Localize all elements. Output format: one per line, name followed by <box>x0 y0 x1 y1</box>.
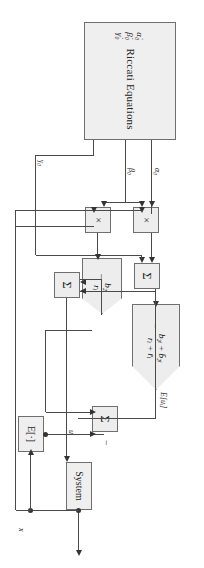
gain-small-numerator: b₂ᵢ <box>102 281 112 294</box>
label-minus-sign: − <box>101 440 112 446</box>
multiplier-symbol-2: × <box>92 217 104 223</box>
wire-sum2-in-a-h <box>101 279 102 315</box>
wire-sum3-src <box>46 330 92 331</box>
riccati-state-alpha: α̇₀ <box>135 32 145 40</box>
arrow-mult2-to-gain-small <box>96 254 102 260</box>
arrow-sum3-in-left <box>90 409 96 415</box>
junction-exp <box>43 432 48 437</box>
wire-x-fb-up-3 <box>16 226 94 227</box>
wire-x-fb-up-1 <box>16 510 31 511</box>
arrow-sum2-to-system <box>65 456 71 462</box>
arrow-x-fb-into-mult1 <box>140 207 146 213</box>
arrow-beta0-into-mult2 <box>102 201 108 207</box>
summation-block-2: Σ <box>54 272 80 298</box>
wire-x-feedback-h <box>15 210 16 510</box>
riccati-state-beta: β̇₀ <box>125 32 135 40</box>
label-gamma0: γ₀ <box>37 160 46 166</box>
arrow-exp-to-sum3 <box>90 431 96 437</box>
arrow-alpha0-into-mult1 <box>150 201 156 207</box>
summation-symbol-1: Σ <box>141 273 154 280</box>
wire-beta0-h <box>125 140 126 202</box>
arrow-x-into-exp <box>29 449 35 455</box>
wire-gamma0-h3 <box>141 255 142 259</box>
wire-sum2-in-a <box>80 279 102 280</box>
gain-block-small: − b₂ᵢ rᵢ <box>82 258 122 314</box>
gain-large-numerator: b₂ᵢ + b̄₂ᵢ <box>156 332 166 365</box>
multiplier-symbol-1: × <box>140 217 152 223</box>
expectation-block: E[·] <box>18 416 44 452</box>
block-diagram: α̇₀ β̇₀ γ̇₀ Riccati Equations × × Σ Σ Σ … <box>0 0 204 568</box>
wire-sum2-in-b-h <box>155 291 156 389</box>
wire-gamma0-v1 <box>36 155 94 156</box>
wire-x-branch-v <box>31 510 79 511</box>
wire-gamma0-h2 <box>35 155 36 255</box>
wire-Eui-h <box>155 388 156 418</box>
riccati-state-list: α̇₀ β̇₀ γ̇₀ <box>115 32 145 40</box>
gain-small-fraction: b₂ᵢ rᵢ <box>92 281 111 294</box>
system-block: System <box>66 462 92 510</box>
riccati-title: Riccati Equations <box>124 48 136 129</box>
summation-symbol-2: Σ <box>61 282 74 289</box>
wire-sum2-in-b <box>80 291 156 292</box>
riccati-state-gamma: γ̇₀ <box>115 33 125 40</box>
expectation-label: E[·] <box>26 426 37 442</box>
label-E-u-i: E[uᵢ] <box>159 392 168 408</box>
arrow-sum2-in-b <box>80 288 86 294</box>
label-alpha0: α₀ <box>153 168 162 175</box>
wire-x-fb-up-2 <box>16 210 142 211</box>
arrow-mult1-to-sum1 <box>150 257 156 263</box>
wire-sum3-in-left-h <box>45 330 46 412</box>
gain-block-large: − b₂ᵢ + b̄₂ᵢ rᵢ + r̄ᵢ <box>132 304 180 390</box>
label-beta0: β₀ <box>127 168 136 175</box>
riccati-equations-block: α̇₀ β̇₀ γ̇₀ Riccati Equations <box>84 22 176 140</box>
wire-gamma0-h1 <box>93 140 94 155</box>
summation-block-1: Σ <box>134 263 160 289</box>
gain-large-sign: − <box>151 323 162 329</box>
wire-mult1-to-sum1 <box>151 233 152 259</box>
system-label: System <box>74 471 85 500</box>
arrow-x-fb-into-mult2 <box>92 207 98 213</box>
arrow-system-out <box>77 550 83 556</box>
wire-gamma0-v2 <box>36 255 142 256</box>
wire-sum3-in-left <box>46 412 92 413</box>
gain-large-fraction: b₂ᵢ + b̄₂ᵢ rᵢ + r̄ᵢ <box>146 332 165 365</box>
label-u-i: uᵢ <box>67 430 76 435</box>
label-x: x <box>17 528 26 532</box>
wire-Eui-v <box>78 418 156 419</box>
figure-canvas: α̇₀ β̇₀ γ̇₀ Riccati Equations × × Σ Σ Σ … <box>0 0 204 568</box>
wire-x-to-exp <box>30 452 31 510</box>
wire-system-out <box>78 510 79 554</box>
